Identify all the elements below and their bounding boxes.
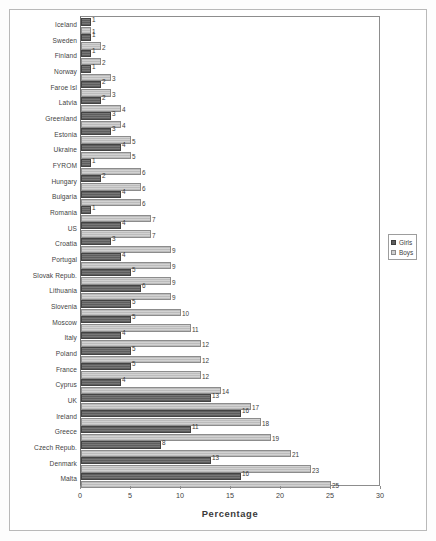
- bar-girls: 3: [81, 238, 111, 245]
- category-label: Iceland: [3, 17, 77, 33]
- legend-item-girls: Girls: [391, 237, 413, 247]
- x-axis-tick: [130, 486, 131, 489]
- category-label: Ukraine: [3, 142, 77, 158]
- category-label: Finland: [3, 48, 77, 64]
- bar-girls: 2: [81, 97, 101, 104]
- bar-girls: 3: [81, 128, 111, 135]
- category-label: Greece: [3, 424, 77, 440]
- bar-girls: 2: [81, 175, 101, 182]
- bar-value-label: 1: [92, 46, 96, 55]
- x-axis: 051015202530: [80, 486, 380, 508]
- chart-row: US47: [81, 221, 379, 237]
- bar-value-label: 2: [102, 171, 106, 180]
- x-axis-tick-label: 10: [176, 491, 184, 500]
- chart-row: Croatia39: [81, 236, 379, 252]
- bar-girls: 5: [81, 269, 131, 276]
- bar-value-label: 13: [212, 453, 219, 462]
- bar-girls: 13: [81, 457, 211, 464]
- category-label: Poland: [3, 346, 77, 362]
- chart-row: Portugal49: [81, 252, 379, 268]
- x-axis-title: Percentage: [80, 508, 380, 519]
- x-axis-tick-label: 30: [376, 491, 384, 500]
- bar-girls: 1: [81, 159, 91, 166]
- bar-girls: 4: [81, 144, 121, 151]
- bar-girls: 5: [81, 316, 131, 323]
- chart-row: France512: [81, 362, 379, 378]
- bar-value-label: 16: [242, 406, 249, 415]
- bar-girls: 1: [81, 65, 91, 72]
- x-axis-tick-label: 25: [326, 491, 334, 500]
- bar-girls: 1: [81, 34, 91, 41]
- x-axis-tick: [380, 486, 381, 489]
- bar-girls: 3: [81, 112, 111, 119]
- bar-girls: 16: [81, 473, 241, 480]
- bar-girls: 16: [81, 410, 241, 417]
- bar-girls: 11: [81, 426, 191, 433]
- chart-legend: Girls Boys: [388, 234, 417, 260]
- x-axis-tick-label: 20: [276, 491, 284, 500]
- x-axis-tick: [180, 486, 181, 489]
- bar-girls: 4: [81, 379, 121, 386]
- x-axis-tick: [330, 486, 331, 489]
- chart-row: Ukraine45: [81, 142, 379, 158]
- x-axis-tick: [80, 486, 81, 489]
- category-label: Croatia: [3, 236, 77, 252]
- category-label: Faroe Isl: [3, 80, 77, 96]
- category-label: Czech Repub.: [3, 440, 77, 456]
- legend-swatch-boys-icon: [391, 250, 396, 255]
- category-label: Greenland: [3, 111, 77, 127]
- bar-value-label: 1: [92, 30, 96, 39]
- category-label: Portugal: [3, 252, 77, 268]
- x-axis-tick: [280, 486, 281, 489]
- x-axis-tick-label: 15: [226, 491, 234, 500]
- bar-value-label: 5: [132, 265, 136, 274]
- chart-row: Ireland1618: [81, 409, 379, 425]
- chart-row: Malta1625: [81, 471, 379, 487]
- bar-value-label: 11: [192, 422, 199, 431]
- bar-girls: 4: [81, 253, 121, 260]
- category-label: Hungary: [3, 174, 77, 190]
- chart-row: Greenland34: [81, 111, 379, 127]
- category-label: Slovenia: [3, 299, 77, 315]
- bar-value-label: 5: [132, 359, 136, 368]
- chart-row: Moscow511: [81, 315, 379, 331]
- category-label: Bulgaria: [3, 189, 77, 205]
- bar-value-label: 1: [92, 62, 96, 71]
- bar-girls: 4: [81, 222, 121, 229]
- bar-value-label: 16: [242, 469, 249, 478]
- bar-value-label: 3: [112, 124, 116, 133]
- category-label: Ireland: [3, 409, 77, 425]
- bar-value-label: 4: [122, 187, 126, 196]
- plot-area: Iceland11Sweden12Finland12Norway13Faroe …: [80, 16, 380, 486]
- bar-value-label: 5: [132, 312, 136, 321]
- bar-value-label: 4: [122, 218, 126, 227]
- bar-girls: 5: [81, 363, 131, 370]
- category-label: Italy: [3, 330, 77, 346]
- bar-value-label: 1: [92, 156, 96, 165]
- bar-value-label: 4: [122, 328, 126, 337]
- legend-label-girls: Girls: [399, 239, 412, 246]
- chart-row: FYROM16: [81, 158, 379, 174]
- bar-value-label: 5: [132, 297, 136, 306]
- legend-label-boys: Boys: [399, 249, 413, 256]
- category-label: Lithuania: [3, 283, 77, 299]
- chart-row: Poland512: [81, 346, 379, 362]
- chart-row: Norway13: [81, 64, 379, 80]
- bar-girls: 1: [81, 206, 91, 213]
- category-label: France: [3, 362, 77, 378]
- bar-value-label: 4: [122, 375, 126, 384]
- bar-value-label: 13: [212, 391, 219, 400]
- category-label: Moscow: [3, 315, 77, 331]
- bar-value-label: 2: [102, 93, 106, 102]
- category-label: Slovak Repub.: [3, 268, 77, 284]
- chart-row: Czech Repub.821: [81, 440, 379, 456]
- bar-value-label: 3: [112, 109, 116, 118]
- chart-row: Estonia35: [81, 127, 379, 143]
- bar-girls: 5: [81, 300, 131, 307]
- category-label: Denmark: [3, 456, 77, 472]
- bar-value-label: 3: [112, 234, 116, 243]
- chart-row: Lithuania69: [81, 283, 379, 299]
- bar-girls: 6: [81, 285, 141, 292]
- chart-page: Iceland11Sweden12Finland12Norway13Faroe …: [0, 0, 436, 541]
- chart-row: Denmark1323: [81, 456, 379, 472]
